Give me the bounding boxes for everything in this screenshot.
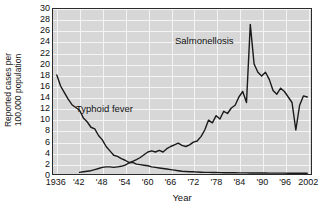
x-tick-label: '96 — [279, 177, 291, 187]
y-tick-label: 30 — [28, 4, 50, 13]
y-tick-label: 26 — [28, 26, 50, 35]
chart-figure: Reported cases per 100,000 population 30… — [0, 0, 326, 212]
x-axis-title: Year — [52, 192, 312, 203]
x-tick-label: '60 — [142, 177, 154, 187]
y-axis-title: Reported cases per 100,000 population — [0, 0, 26, 180]
y-tick-label: 18 — [28, 70, 50, 79]
y-tick-label: 4 — [28, 148, 50, 157]
series-line-typhoid-fever — [57, 75, 307, 173]
series-label-salmonellosis: Salmonellosis — [175, 35, 234, 46]
y-tick-label: 14 — [28, 93, 50, 102]
y-tick-label: 28 — [28, 15, 50, 24]
y-tick-label: 22 — [28, 48, 50, 57]
y-tick-label: 12 — [28, 104, 50, 113]
x-tick-label: '48 — [96, 177, 108, 187]
y-tick-label: 6 — [28, 137, 50, 146]
series-curves — [53, 9, 311, 174]
y-tick-label: 2 — [28, 159, 50, 168]
x-tick-label: '84 — [233, 177, 245, 187]
x-axis-ticks: 1936'42'48'54'60'66'72'78'84'90'962002 — [52, 177, 312, 191]
y-tick-label: 16 — [28, 81, 50, 90]
y-tick-label: 20 — [28, 59, 50, 68]
y-tick-label: 10 — [28, 115, 50, 124]
series-label-typhoid-fever: Typhoid fever — [76, 103, 133, 114]
x-tick-label: '54 — [119, 177, 131, 187]
y-axis-title-line1: Reported cases per — [3, 53, 13, 127]
x-tick-label: '72 — [188, 177, 200, 187]
series-line-salmonellosis — [80, 24, 308, 172]
y-tick-label: 8 — [28, 126, 50, 135]
x-tick-label: '78 — [211, 177, 223, 187]
y-tick-label: 24 — [28, 37, 50, 46]
plot-area — [52, 8, 312, 175]
x-tick-label: '66 — [165, 177, 177, 187]
x-tick-label: 2002 — [298, 177, 318, 187]
y-axis-title-line2: 100,000 population — [13, 53, 23, 127]
x-tick-label: '90 — [256, 177, 268, 187]
x-tick-label: 1936 — [46, 177, 66, 187]
x-tick-label: '42 — [73, 177, 85, 187]
